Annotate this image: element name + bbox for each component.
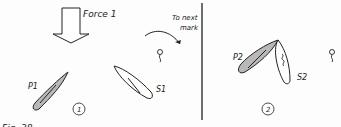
boat-s2: [276, 40, 290, 84]
next-mark-label-line1: To next: [172, 14, 198, 22]
boat-label-p1: P1: [28, 82, 38, 91]
next-mark-label-line2: mark: [180, 24, 199, 32]
boat-p2: [238, 40, 278, 73]
panel-number-2: 2: [266, 106, 271, 114]
force-label: Force 1: [83, 9, 116, 19]
panel-number-1: 1: [77, 106, 81, 114]
boat-label-s2: S2: [297, 73, 307, 82]
next-mark-arrowhead: [175, 40, 181, 44]
diagram-canvas: Force 1 P1 S1 1 To next mark P2 S2 2: [0, 0, 341, 127]
next-mark-arrow: [145, 31, 180, 44]
mark-buoy-1: [158, 50, 163, 63]
boat-label-p2: P2: [233, 53, 243, 62]
mark-buoy-2: [330, 50, 335, 63]
sailing-rules-diagram: Force 1 P1 S1 1 To next mark P2 S2 2: [0, 0, 341, 127]
boat-s1: [114, 66, 152, 99]
boat-p1: [33, 72, 68, 110]
figure-caption: Fig. 38: [2, 123, 33, 127]
boat-label-s1: S1: [156, 85, 166, 94]
